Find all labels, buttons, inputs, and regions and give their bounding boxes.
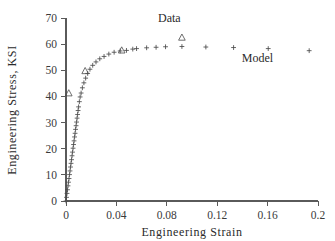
marker-plus: [75, 116, 80, 121]
x-axis-title: Engineering Strain: [141, 225, 242, 239]
marker-plus: [71, 146, 76, 151]
series-label-data: Data: [158, 11, 181, 25]
series-label-model: Model: [242, 51, 274, 65]
x-tick-label: 0.04: [106, 209, 126, 221]
marker-plus: [88, 67, 93, 72]
marker-plus: [106, 52, 111, 57]
marker-plus: [81, 80, 86, 85]
marker-plus: [68, 165, 73, 170]
marker-plus: [102, 54, 107, 59]
marker-plus: [69, 161, 74, 166]
marker-plus: [78, 95, 83, 100]
series-model-markers: [64, 44, 312, 203]
axes-group: [66, 18, 318, 201]
marker-plus: [71, 142, 76, 147]
marker-plus: [77, 99, 82, 104]
x-tick-label: 0.12: [207, 209, 227, 221]
marker-plus: [83, 76, 88, 81]
marker-plus: [74, 123, 79, 128]
marker-plus: [67, 172, 72, 177]
marker-plus: [180, 44, 185, 49]
y-axis-ticks: 010203040506070: [46, 12, 67, 207]
marker-plus: [130, 47, 135, 52]
series-annotations: DataModel: [158, 11, 274, 66]
marker-plus: [72, 135, 77, 140]
marker-plus: [266, 46, 271, 51]
marker-plus: [307, 48, 312, 53]
y-tick-label: 70: [46, 12, 58, 24]
marker-plus: [72, 138, 77, 143]
marker-plus: [74, 120, 79, 125]
y-tick-label: 10: [46, 169, 58, 181]
x-tick-label: 0.08: [157, 209, 177, 221]
x-axis-ticks: 00.040.080.120.160.2: [63, 201, 325, 221]
y-tick-label: 40: [46, 90, 58, 102]
y-tick-label: 30: [46, 117, 58, 129]
marker-plus: [76, 108, 81, 113]
x-tick-label: 0.2: [311, 209, 326, 221]
series-data-markers: [65, 34, 185, 96]
marker-plus: [76, 104, 81, 109]
y-tick-label: 0: [51, 195, 57, 207]
marker-plus: [231, 45, 236, 50]
x-tick-label: 0: [63, 209, 69, 221]
y-tick-label: 20: [46, 143, 58, 155]
marker-plus: [112, 50, 117, 55]
y-tick-label: 60: [46, 38, 58, 50]
x-tick-label: 0.16: [258, 209, 278, 221]
y-tick-label: 50: [46, 64, 58, 76]
marker-plus: [66, 180, 71, 185]
marker-triangle: [118, 47, 125, 53]
marker-plus: [64, 199, 69, 204]
marker-plus: [97, 56, 102, 61]
chart-container: 010203040506070 00.040.080.120.160.2 Dat…: [0, 0, 335, 241]
marker-plus: [75, 112, 80, 117]
y-axis-title: Engineering Stress, KSI: [5, 45, 19, 174]
marker-plus: [203, 45, 208, 50]
marker-plus: [144, 45, 149, 50]
marker-plus: [65, 191, 70, 196]
marker-plus: [73, 127, 78, 132]
marker-plus: [67, 176, 72, 181]
marker-plus: [163, 44, 168, 49]
marker-plus: [134, 46, 139, 51]
marker-plus: [64, 195, 69, 200]
marker-triangle: [179, 34, 186, 40]
marker-plus: [79, 91, 84, 96]
marker-plus: [73, 131, 78, 136]
marker-plus: [80, 85, 85, 90]
marker-plus: [68, 169, 73, 174]
marker-plus: [94, 60, 99, 65]
marker-plus: [154, 45, 159, 50]
marker-plus: [90, 63, 95, 68]
stress-strain-scatter-chart: 010203040506070 00.040.080.120.160.2 Dat…: [0, 0, 335, 241]
marker-plus: [69, 157, 74, 162]
marker-plus: [70, 153, 75, 158]
marker-plus: [70, 150, 75, 155]
